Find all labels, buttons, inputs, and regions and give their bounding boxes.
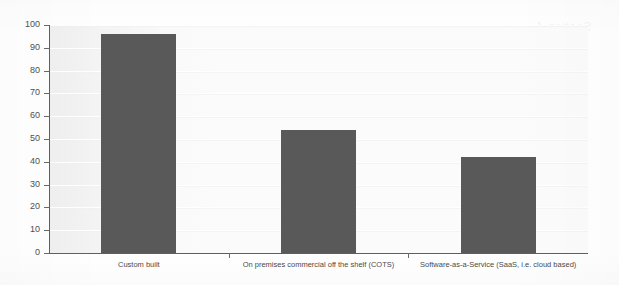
bar <box>461 157 536 253</box>
x-axis-tick-label: On premises commercial off the shelf (CO… <box>229 261 409 269</box>
y-axis-tick-label: 80 <box>4 66 40 75</box>
x-axis-tick <box>408 253 409 258</box>
x-axis-tick-label: Software-as-a-Service (SaaS, i.e. cloud … <box>408 261 588 269</box>
x-axis-tick <box>229 253 230 258</box>
bar <box>281 130 356 253</box>
y-axis-tick-label: 40 <box>4 157 40 166</box>
gridline <box>49 25 588 26</box>
x-axis-line <box>49 253 588 254</box>
y-axis-tick-label: 60 <box>4 111 40 120</box>
y-axis-tick-label: 70 <box>4 88 40 97</box>
y-axis-tick-label: 10 <box>4 225 40 234</box>
x-axis-tick-label: Custom built <box>49 261 229 269</box>
y-axis-tick-label: 50 <box>4 134 40 143</box>
y-axis-tick-label: 90 <box>4 43 40 52</box>
y-axis-tick-label: 100 <box>4 20 40 29</box>
bar <box>101 34 176 253</box>
y-axis-tick-label: 0 <box>4 248 40 257</box>
y-axis-tick-label: 20 <box>4 202 40 211</box>
bar-chart: Figure 12: Application hosting preferred… <box>0 0 619 285</box>
y-axis-line <box>49 25 50 254</box>
y-axis-tick-label: 30 <box>4 180 40 189</box>
